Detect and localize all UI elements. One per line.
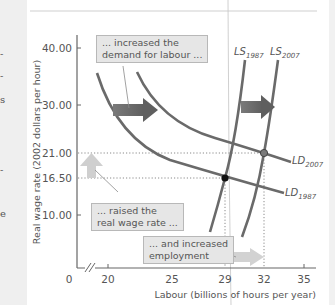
y-tick-30: 30.00: [42, 99, 72, 111]
x-tick-29: 29: [218, 273, 231, 285]
x-tick-0: 0: [66, 273, 73, 285]
x-tick-35: 35: [297, 273, 310, 285]
equilibrium-2007-point: [260, 149, 267, 156]
y-tick-10: 10.00: [42, 209, 72, 221]
ld-2007-curve: [137, 72, 291, 162]
demand-callout: ... increased the demand for labour ...: [96, 35, 208, 63]
x-tick-20: 20: [101, 273, 114, 285]
wage-callout: ... raised the real wage rate ...: [91, 203, 184, 231]
y-tick-21: 21.00: [42, 147, 72, 159]
demand-callout-leader: [123, 66, 129, 108]
x-tick-32: 32: [257, 273, 270, 285]
y-tick-16-50: 16.50: [42, 172, 72, 184]
ld-1987-label: LD1987: [285, 187, 317, 201]
x-tick-25: 25: [165, 273, 178, 285]
equilibrium-1987-point: [221, 174, 228, 181]
x-axis-title: Labour (billions of hours per year): [154, 289, 316, 300]
y-axis-title: Real wage rate (2002 dollars per hour): [31, 60, 42, 244]
employment-callout: ... and increased employment: [143, 236, 234, 264]
ld-2007-label: LD2007: [292, 155, 324, 169]
ld-1987-curve: [97, 73, 284, 193]
axis-break-icon: [85, 262, 95, 272]
ls-1987-label: LS1987: [234, 46, 264, 60]
ls-2007-label: LS2007: [270, 46, 300, 60]
wage-callout-leader: [95, 170, 118, 192]
y-tick-40: 40.00: [42, 42, 72, 54]
